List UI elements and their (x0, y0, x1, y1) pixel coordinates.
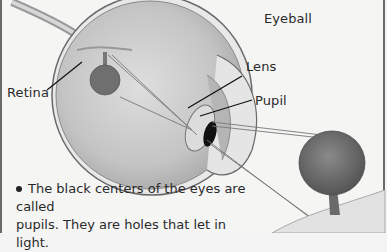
pupil-label: Pupil (255, 94, 287, 107)
eyeball-label: Eyeball (264, 12, 312, 25)
hill (272, 190, 385, 233)
caption: The black centers of the eyes are called… (16, 180, 256, 252)
caption-line-2: pupils. They are holes that let in light… (16, 217, 226, 250)
lens-label: Lens (246, 60, 276, 73)
caption-line-1: The black centers of the eyes are called (16, 181, 245, 214)
retina-label: Retina (7, 86, 49, 99)
optic-nerve (12, 2, 77, 35)
bullet-icon (16, 186, 22, 192)
